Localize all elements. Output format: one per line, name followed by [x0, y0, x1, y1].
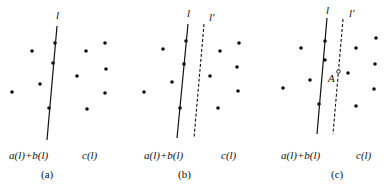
left-set-label: a(l)+b(l) [144, 149, 184, 162]
line-l-prime [194, 24, 204, 138]
line-l-prime-label: l′ [349, 7, 355, 19]
point-a-open-circle [337, 70, 341, 74]
panel-a: l a(l)+b(l) c(l) (a) [9, 9, 108, 181]
right-set-label: c(l) [356, 149, 372, 162]
panel-caption: (a) [41, 168, 54, 181]
points [142, 39, 241, 110]
point-a-label: A [327, 72, 335, 84]
left-set-label: a(l)+b(l) [281, 149, 321, 162]
panel-b: l l′ a(l)+b(l) c(l) (b) [142, 7, 241, 181]
panel-c: l l′ A a(l)+b(l) c(l) (c) [281, 4, 378, 181]
left-set-label: a(l)+b(l) [9, 149, 49, 162]
line-l-label: l [187, 7, 190, 19]
line-l-prime-label: l′ [209, 11, 215, 23]
line-l [317, 18, 327, 134]
line-l-label: l [326, 4, 329, 16]
line-l-label: l [56, 9, 59, 21]
diagram: l a(l)+b(l) c(l) (a) l l′ a(l)+b(l) c(l)… [0, 0, 386, 186]
panel-caption: (c) [331, 168, 344, 181]
panel-caption: (b) [178, 168, 191, 181]
right-set-label: c(l) [82, 149, 98, 162]
right-set-label: c(l) [221, 149, 237, 162]
points [10, 41, 108, 111]
